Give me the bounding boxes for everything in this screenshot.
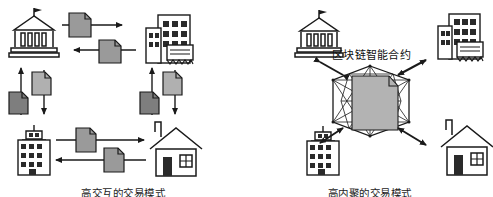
house-icon [150, 122, 202, 176]
left-panel-diagram [0, 0, 246, 197]
document-icon [76, 128, 96, 152]
transaction-mode-comparison-figure: 高交互的交易模式 [0, 0, 493, 197]
right-panel-caption: 高内聚的交易模式 [246, 185, 493, 197]
left-panel-caption: 高交互的交易模式 [0, 185, 246, 197]
connection-node-house [398, 128, 426, 145]
exchange-bank-to-apartment [32, 70, 51, 114]
right-panel-diagram [246, 0, 493, 197]
left-panel-high-interaction: 高交互的交易模式 [0, 0, 246, 197]
exchange-office-to-bank [74, 40, 136, 63]
exchange-bank-to-office [62, 13, 122, 37]
document-icon [140, 92, 159, 114]
connection-node-office [398, 60, 426, 75]
exchange-apartment-to-bank [9, 68, 28, 115]
document-icon [99, 40, 121, 63]
connection-node-bank [320, 62, 343, 75]
document-icon [163, 72, 182, 95]
exchange-house-to-office [140, 68, 159, 115]
office-building-icon [146, 15, 193, 64]
exchange-apartment-to-house [56, 128, 144, 152]
document-icon [104, 148, 124, 172]
apartment-building-icon [18, 125, 50, 175]
bank-icon [9, 8, 59, 57]
exchange-house-to-apartment [56, 148, 146, 172]
blockchain-smart-contract-label: 区块链智能合约 [332, 46, 411, 62]
document-icon [9, 92, 28, 114]
document-icon [69, 13, 91, 37]
right-panel-high-cohesion: 区块链智能合约 高内聚的交易模式 [246, 0, 493, 197]
exchange-office-to-house [163, 70, 182, 114]
office-building-icon [438, 14, 483, 61]
document-icon [32, 72, 51, 95]
house-icon [441, 120, 493, 175]
